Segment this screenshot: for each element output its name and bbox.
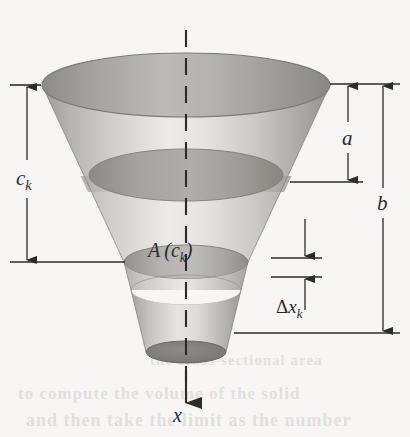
diagram-canvas (0, 0, 410, 437)
label-b-base: b (377, 191, 388, 215)
label-b: b (377, 191, 388, 216)
label-c-k-sub: k (25, 177, 31, 193)
label-c-k-base: c (16, 166, 25, 190)
label-area-close-paren: ) (186, 239, 193, 261)
label-delta-symbol: Δ (276, 296, 288, 317)
label-x-axis: x (173, 404, 182, 427)
label-delta-sub: k (297, 306, 303, 321)
label-area-open-paren: ( (164, 239, 171, 261)
figure-container: the cross-sectional area to compute the … (0, 0, 410, 437)
label-x-axis-base: x (173, 404, 182, 426)
label-area-fn: A (148, 239, 160, 261)
label-c-k: ck (16, 166, 32, 194)
label-area-of-c-k: A (ck) (148, 239, 193, 266)
label-delta-x-k: Δxk (276, 296, 302, 322)
label-delta-base: x (288, 296, 296, 317)
label-a-base: a (342, 126, 353, 150)
label-a: a (342, 126, 353, 151)
label-area-base: c (171, 239, 180, 261)
